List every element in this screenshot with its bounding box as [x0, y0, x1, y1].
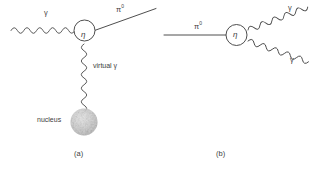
eta-vertex-label-a: η	[81, 31, 85, 39]
incoming-pion-charge: 0	[199, 20, 202, 26]
nucleus-label-a: nucleus	[37, 116, 61, 123]
caption-panel-a: (a)	[74, 150, 83, 158]
nucleus-blob	[71, 109, 98, 136]
outgoing-photon-wave-upper-b	[247, 5, 309, 33]
incoming-photon-label-a: γ	[44, 9, 48, 17]
caption-panel-b: (b)	[216, 150, 225, 158]
incoming-pion-label-b: π0	[194, 21, 202, 30]
outgoing-photon-wave-lower-b	[247, 38, 309, 64]
outgoing-photon-upper-label-b: γ	[288, 4, 292, 12]
diagram-canvas	[0, 0, 318, 169]
eta-vertex-label-b: η	[233, 31, 237, 39]
outgoing-photon-lower-label-b: γ	[290, 56, 294, 64]
feynman-diagram-figure: γ π0 η virtual γ nucleus (a) π0 η γ γ (b…	[0, 0, 318, 169]
outgoing-pion-label-a: π0	[116, 4, 124, 13]
virtual-photon-wave-a	[81, 44, 86, 118]
incoming-photon-wave-a	[11, 28, 75, 34]
virtual-photon-label-a: virtual γ	[93, 62, 117, 69]
outgoing-pion-charge: 0	[121, 3, 124, 9]
outgoing-pion-line-a	[95, 9, 157, 31]
